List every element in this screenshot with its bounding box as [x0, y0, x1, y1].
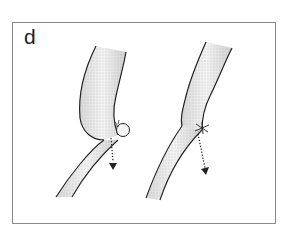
right-vessel — [146, 42, 232, 200]
left-vessel — [56, 46, 130, 197]
right-arrow-icon — [198, 134, 209, 175]
vessel-illustrations — [0, 0, 288, 234]
